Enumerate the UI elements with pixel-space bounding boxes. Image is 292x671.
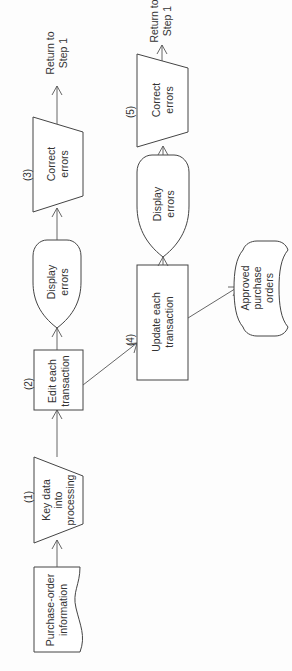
approved-line-2: purchase	[251, 266, 263, 309]
po-info-line-2: information	[57, 584, 69, 636]
return1-line-2: Step 1	[57, 38, 69, 69]
update-line-1: Update each	[150, 292, 162, 352]
arrow-display1-to-correct1	[52, 208, 62, 240]
arrow-correct1-to-return1	[52, 86, 62, 124]
approved-line-3: orders	[263, 273, 275, 303]
node-return-to-step1-a: Return to Step 1	[44, 31, 69, 74]
correct1-line-1: Correct	[45, 147, 57, 182]
arrow-edit-to-update	[83, 343, 137, 385]
return2-line-1: Return to	[148, 0, 160, 43]
correct2-line-1: Correct	[150, 83, 162, 118]
node-edit-each-transaction: Edit each transaction (2)	[23, 350, 83, 410]
arrow-display2-to-correct2	[158, 146, 168, 155]
display2-line-2: errors	[164, 190, 176, 217]
arrow-correct2-to-return2	[157, 45, 167, 61]
display2-line-1: Display	[151, 186, 163, 221]
approved-line-1: Approved	[239, 265, 251, 310]
po-info-line-1: Purchase-order	[44, 573, 56, 646]
node-correct-errors-1: Correct errors (3)	[22, 117, 83, 212]
node-correct-errors-2: Correct errors (5)	[125, 54, 188, 147]
key-data-line-3: processing	[64, 474, 76, 525]
node-return-to-step1-b: Return to Step 1	[148, 0, 173, 43]
step-4-label: (4)	[125, 334, 136, 346]
node-key-data: Key data into processing (1)	[23, 457, 83, 543]
step-5-label: (5)	[125, 106, 136, 118]
node-display-errors-1: Display errors	[33, 240, 81, 328]
arrow-keydata-to-edit	[52, 410, 62, 457]
correct1-line-2: errors	[58, 150, 70, 177]
node-update-each-transaction: Update each transaction (4)	[125, 265, 188, 380]
node-display-errors-2: Display errors	[137, 155, 189, 257]
return1-line-1: Return to	[44, 31, 56, 74]
step-1-label: (1)	[23, 491, 34, 503]
return2-line-2: Step 1	[161, 6, 173, 37]
edit-line-1: Edit each	[46, 359, 58, 403]
display1-line-1: Display	[45, 264, 57, 299]
node-purchase-order-information: Purchase-order information	[34, 567, 83, 652]
correct2-line-2: errors	[163, 86, 175, 113]
arrow-update-to-approved	[188, 287, 238, 318]
arrow-po-to-keydata	[52, 540, 62, 567]
arrow-edit-to-display1	[52, 328, 62, 350]
key-data-line-2: into	[52, 491, 64, 508]
step-2-label: (2)	[23, 378, 34, 390]
display1-line-2: errors	[58, 268, 70, 295]
edit-line-2: transaction	[59, 355, 71, 407]
update-line-2: transaction	[163, 296, 175, 348]
key-data-line-1: Key data	[40, 479, 52, 521]
node-approved-purchase-orders: Approved purchase orders	[234, 241, 288, 336]
step-3-label: (3)	[22, 169, 33, 181]
flowchart-diagram: Purchase-order information Key data into…	[0, 0, 292, 671]
